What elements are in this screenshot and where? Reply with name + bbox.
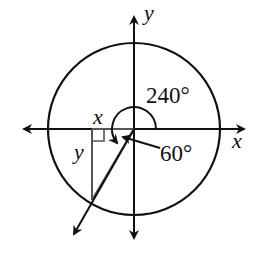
diagram: y x 240° 60° x y <box>0 0 258 255</box>
right-angle-marker <box>92 129 104 141</box>
leg-y-label: y <box>74 141 84 163</box>
reference-angle-label: 60° <box>160 142 192 165</box>
angle-label: 240° <box>146 84 190 107</box>
y-axis-label: y <box>144 2 154 24</box>
leg-x-label: x <box>93 106 103 128</box>
reference-angle-pointer <box>123 137 160 148</box>
x-axis-label: x <box>232 130 242 152</box>
unit-circle-figure <box>0 0 258 255</box>
